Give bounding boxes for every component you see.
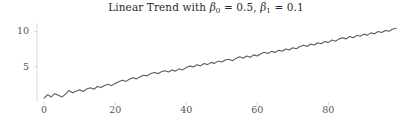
x-tick-label: 0 (29, 104, 59, 115)
x-tick-label: 60 (242, 104, 272, 115)
chart-axes (0, 0, 412, 125)
chart-figure: Linear Trend with β0 = 0.5, β1 = 0.1 510… (0, 0, 412, 125)
y-tick-label: 10 (1, 25, 29, 36)
x-tick-label: 80 (313, 104, 343, 115)
x-tick-label: 40 (171, 104, 201, 115)
data-series-line (44, 28, 396, 98)
x-tick-label: 20 (100, 104, 130, 115)
y-tick-label: 5 (1, 61, 29, 72)
